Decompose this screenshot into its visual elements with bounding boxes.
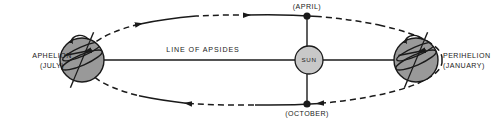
- orbit-segment-bottom-solid-left: [139, 96, 188, 104]
- sun-label: SUN: [301, 56, 316, 63]
- perihelion-label-month: (JANUARY): [443, 62, 485, 70]
- line-of-apsides-label: LINE OF APSIDES: [166, 46, 239, 54]
- orbit-segment-top-dashed-left: [95, 24, 139, 42]
- orbit-segment-top-solid-left: [139, 16, 196, 24]
- april-label: (APRIL): [293, 3, 321, 11]
- sun-body: SUN: [295, 46, 323, 74]
- aphelion-label-month: (JULY): [40, 62, 64, 70]
- october-node-marker: [303, 100, 310, 107]
- aphelion-label-name: APHELION: [32, 52, 71, 60]
- april-node-marker: [303, 12, 310, 19]
- orbit-segment-top-dashed-right-2: [318, 16, 381, 25]
- orbit-diagram: LINE OF APSIDES SUN (APRIL) (OCTOBER): [0, 0, 499, 119]
- earth-aphelion: APHELION (JULY): [32, 32, 104, 87]
- orbit-diagram-svg: LINE OF APSIDES SUN (APRIL) (OCTOBER): [0, 0, 499, 119]
- october-label: (OCTOBER): [285, 110, 329, 118]
- perihelion-label-name: PERIHELION: [443, 52, 490, 60]
- orbit-segment-top-dashed-mid: [196, 15, 249, 16]
- orbit-segment-bottom-dashed-left: [95, 77, 139, 95]
- orbit-segment-bottom-dashed-mid: [188, 103, 255, 105]
